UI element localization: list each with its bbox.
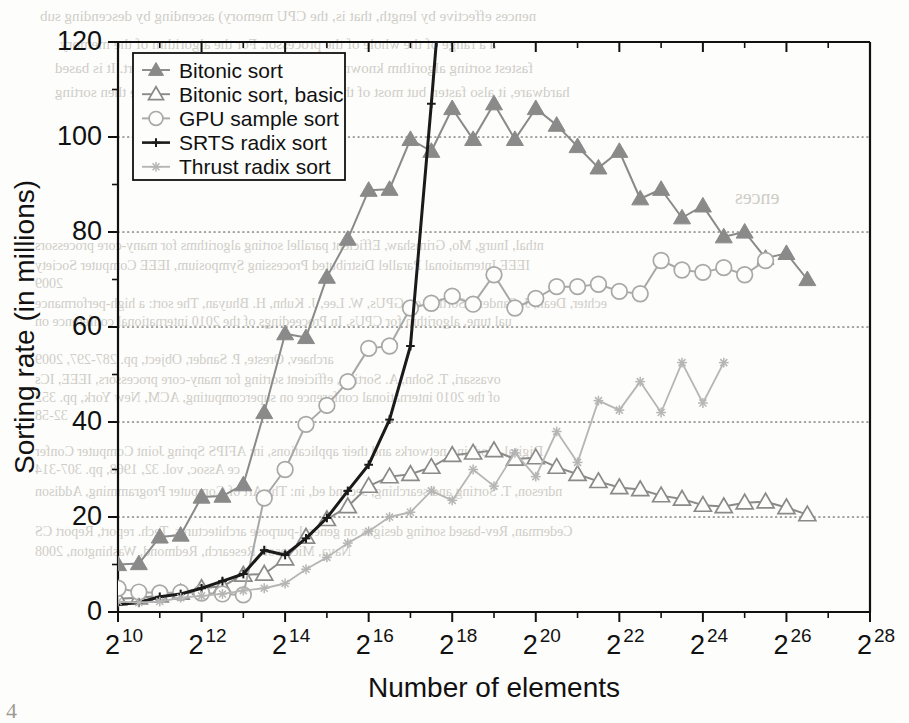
marker-triangle-filled [235, 476, 252, 491]
marker-triangle-filled [465, 131, 482, 146]
marker-triangle-filled [402, 131, 419, 146]
x-tick-exponent: 12 [206, 625, 227, 646]
x-tick-exponent: 18 [456, 625, 477, 646]
y-tick-label: 40 [72, 406, 102, 436]
marker-triangle-open [360, 478, 377, 493]
marker-circle-open [695, 265, 711, 281]
x-tick-base: 2 [439, 630, 454, 660]
y-tick-label: 120 [57, 26, 102, 56]
marker-triangle-filled [506, 131, 523, 146]
series-gpu-sample-sort [110, 253, 773, 603]
series-line [118, 451, 807, 599]
marker-circle-open [149, 112, 163, 126]
x-tick-base: 2 [356, 630, 371, 660]
marker-circle-open [507, 300, 523, 316]
x-tick-exponent: 24 [707, 625, 729, 646]
series-thrust-radix-sort [113, 358, 729, 608]
marker-triangle-filled [423, 143, 440, 158]
x-axis-title: Number of elements [368, 672, 620, 703]
legend-label-1: Bitonic sort, basic [179, 83, 344, 106]
marker-triangle-open [423, 459, 440, 474]
x-tick-label: 214 [272, 625, 311, 660]
marker-triangle-filled [214, 488, 231, 503]
x-tick-exponent: 28 [874, 625, 895, 646]
marker-triangle-filled [444, 100, 461, 115]
marker-triangle-open [256, 566, 273, 581]
marker-circle-open [340, 374, 356, 390]
y-axis-title: Sorting rate (in millions) [9, 180, 40, 474]
marker-circle-open [319, 398, 335, 414]
legend-label-4: Thrust radix sort [179, 155, 331, 178]
legend-label-0: Bitonic sort [179, 59, 283, 82]
marker-triangle-filled [736, 224, 753, 239]
x-tick-base: 2 [690, 630, 705, 660]
y-tick-label: 80 [72, 216, 102, 246]
marker-triangle-filled [653, 181, 670, 196]
marker-triangle-open [486, 442, 503, 457]
y-tick-label: 100 [57, 121, 102, 151]
x-tick-label: 212 [189, 625, 227, 660]
x-tick-base: 2 [523, 630, 538, 660]
series-line [118, 363, 724, 603]
marker-triangle-filled [611, 143, 628, 158]
y-tick-label: 60 [72, 311, 102, 341]
marker-circle-open [674, 262, 690, 278]
x-tick-base: 2 [606, 630, 621, 660]
marker-circle-open [758, 253, 774, 269]
marker-triangle-filled [256, 404, 273, 419]
marker-triangle-filled [318, 269, 335, 284]
sorting-rate-chart-figure: 0204060801001202102122142162182202222242… [0, 0, 909, 723]
x-tick-exponent: 20 [540, 625, 561, 646]
x-tick-exponent: 26 [790, 625, 811, 646]
marker-circle-open [403, 300, 419, 316]
marker-triangle-filled [778, 245, 795, 260]
series-bitonic-sort-basic [110, 442, 816, 605]
x-tick-label: 216 [356, 625, 394, 660]
marker-triangle-filled [339, 231, 356, 246]
marker-circle-open [256, 490, 272, 506]
marker-circle-open [549, 279, 565, 295]
x-tick-label: 210 [105, 625, 143, 660]
y-tick-label: 0 [87, 596, 102, 626]
marker-circle-open [653, 253, 669, 269]
y-tick-label: 20 [72, 501, 102, 531]
x-tick-exponent: 10 [122, 625, 143, 646]
x-tick-base: 2 [272, 630, 287, 660]
marker-triangle-open [527, 449, 544, 464]
x-tick-label: 228 [857, 625, 895, 660]
x-tick-label: 226 [773, 625, 811, 660]
x-tick-exponent: 22 [623, 625, 644, 646]
marker-circle-open [591, 276, 607, 292]
marker-circle-open [737, 267, 753, 283]
marker-circle-open [382, 338, 398, 354]
marker-circle-open [110, 580, 126, 596]
marker-triangle-filled [381, 181, 398, 196]
marker-circle-open [444, 288, 460, 304]
x-tick-label: 220 [523, 625, 561, 660]
marker-triangle-filled [172, 527, 189, 542]
marker-triangle-open [757, 493, 774, 508]
marker-triangle-filled [694, 197, 711, 212]
chart-legend: Bitonic sortBitonic sort, basicGPU sampl… [133, 53, 345, 180]
marker-circle-open [298, 417, 314, 433]
chart-canvas: 0204060801001202102122142162182202222242… [0, 0, 909, 723]
marker-circle-open [632, 286, 648, 302]
legend-label-2: GPU sample sort [179, 107, 339, 130]
marker-circle-open [716, 260, 732, 276]
marker-circle-open [528, 291, 544, 307]
figure-caption: 4 [6, 698, 17, 723]
x-tick-label: 222 [606, 625, 644, 660]
marker-triangle-filled [548, 117, 565, 132]
x-tick-exponent: 16 [373, 625, 394, 646]
marker-circle-open [131, 584, 147, 600]
marker-triangle-filled [486, 95, 503, 110]
x-tick-label: 224 [690, 625, 729, 660]
x-tick-exponent: 14 [289, 625, 311, 646]
marker-circle-open [612, 284, 628, 300]
marker-circle-open [465, 296, 481, 312]
marker-triangle-filled [674, 209, 691, 224]
marker-circle-open [361, 341, 377, 357]
x-tick-base: 2 [105, 630, 120, 660]
marker-circle-open [486, 267, 502, 283]
marker-triangle-open [548, 459, 565, 474]
